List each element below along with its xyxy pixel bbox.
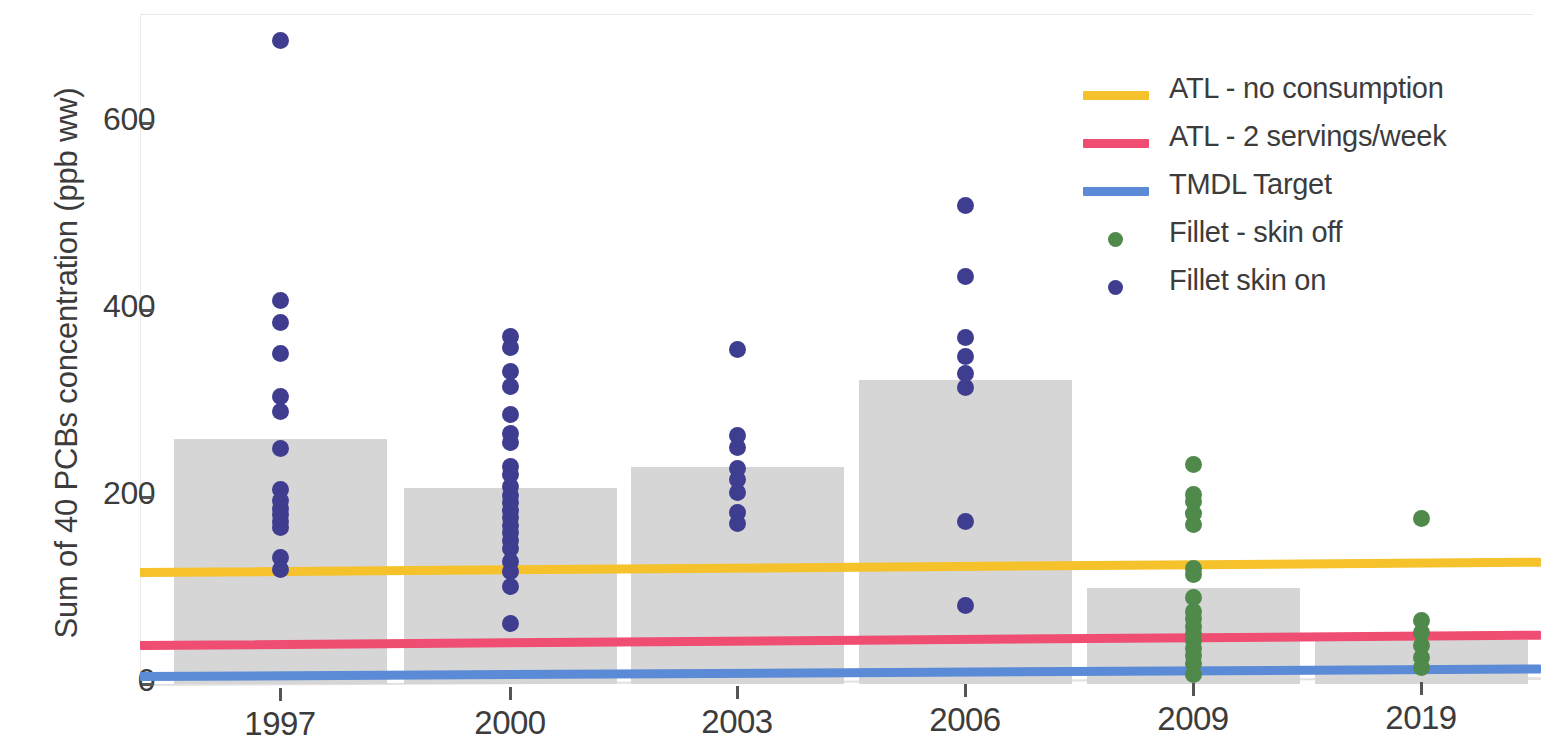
x-axis-tick-label-2009: 2009 [1113,700,1273,738]
data-point [272,403,289,420]
x-axis-tick-label-2019: 2019 [1341,699,1501,737]
data-point [272,292,289,309]
data-point [729,484,746,501]
data-point [502,578,519,595]
data-point [729,515,746,532]
legend-item-label: TMDL Target [1169,168,1332,201]
legend-line-swatch-icon [1083,139,1149,148]
x-axis-tick-label-1997: 1997 [200,705,360,743]
legend-line-swatch-icon [1083,187,1149,196]
data-point [502,339,519,356]
data-point [272,440,289,457]
x-axis-tick-label-2003: 2003 [657,703,817,741]
legend-dot-swatch-icon [1108,232,1123,247]
legend-item-4[interactable]: Fillet - skin off [1083,216,1433,264]
x-axis-tick-label-2000: 2000 [430,704,590,742]
x-axis-tick-mark [964,684,967,697]
legend-line-swatch-icon [1083,91,1149,100]
data-point [957,348,974,365]
x-axis-tick-mark [736,686,739,699]
data-point [957,329,974,346]
pcb-concentration-chart: Sum of 40 PCBs concentration (ppb ww) 60… [0,0,1541,754]
y-axis-tick-mark [142,122,153,125]
legend-item-label: ATL - 2 servings/week [1169,120,1446,153]
legend-item-label: ATL - no consumption [1169,72,1443,105]
y-axis-tick-label: 600 [103,101,155,138]
x-axis-tick-mark [509,687,512,700]
data-point [502,434,519,451]
y-axis-tick-mark [142,309,153,312]
data-point [1185,516,1202,533]
legend-item-3[interactable]: TMDL Target [1083,168,1433,216]
data-point [1185,456,1202,473]
legend-dot-swatch-icon [1108,280,1123,295]
legend-item-label: Fillet skin on [1169,264,1326,297]
data-point [1413,659,1430,676]
data-point [502,406,519,423]
legend-item-5[interactable]: Fillet skin on [1083,264,1433,312]
data-point [957,513,974,530]
data-point [1413,510,1430,527]
data-point [272,32,289,49]
data-point [1185,566,1202,583]
y-axis-tick-mark [142,496,153,499]
data-point [957,197,974,214]
legend-item-2[interactable]: ATL - 2 servings/week [1083,120,1433,168]
data-point [272,561,289,578]
x-axis-tick-mark [1420,682,1423,695]
data-point [957,379,974,396]
data-point [502,378,519,395]
x-axis-tick-label-2006: 2006 [885,701,1045,739]
data-point [272,345,289,362]
legend-item-label: Fillet - skin off [1169,216,1342,249]
data-point [957,597,974,614]
legend-item-1[interactable]: ATL - no consumption [1083,72,1433,120]
y-axis-tick-label: 400 [103,288,155,325]
x-axis-tick-mark [279,688,282,701]
y-axis-tick-label: 200 [103,475,155,512]
data-point [957,268,974,285]
y-axis-title: Sum of 40 PCBs concentration (ppb ww) [49,43,85,683]
data-point [502,615,519,632]
data-point [729,341,746,358]
data-point [272,314,289,331]
data-point [1185,666,1202,683]
data-point [272,519,289,536]
chart-legend: ATL - no consumptionATL - 2 servings/wee… [1083,72,1433,312]
data-point [729,439,746,456]
x-axis-tick-mark [1192,683,1195,696]
y-axis-tick-mark [142,683,153,686]
